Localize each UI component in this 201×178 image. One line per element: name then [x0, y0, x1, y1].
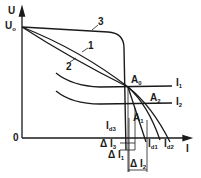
i2-label: I2: [176, 97, 182, 107]
i1-label: I1: [176, 78, 182, 88]
point-a1-label: A1: [133, 113, 144, 123]
curve-3-label: 3: [98, 17, 104, 27]
y-axis-label: U: [8, 6, 15, 16]
u0-label: Uo: [5, 21, 16, 31]
x-axis-arrow-icon: [183, 136, 191, 141]
curve-2-label: 2: [66, 62, 72, 72]
point-a0-label: A0: [131, 75, 142, 85]
point-a2-label: A2: [150, 93, 161, 103]
curve-2: [22, 27, 170, 142]
id1-label: Id1: [148, 139, 158, 149]
x-axis-label: I: [186, 144, 189, 154]
delta-i1-label: Δ I1: [108, 150, 124, 160]
y-axis-arrow-icon: [20, 7, 25, 16]
delta-i2-label: Δ I2: [130, 159, 146, 169]
origin-label: 0: [13, 133, 19, 143]
id3-label: Id3: [106, 121, 116, 131]
delta-i3-label: Δ I3: [100, 139, 116, 149]
id2-label: Id2: [164, 139, 174, 149]
curve-1-label: 1: [88, 41, 94, 51]
